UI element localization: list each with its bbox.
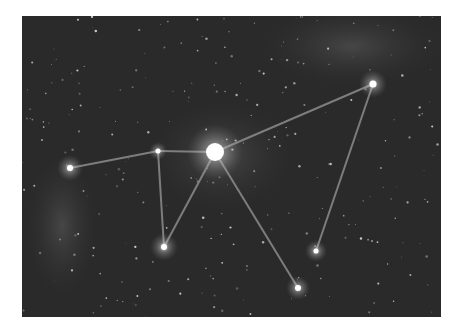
star-upper-right <box>370 81 377 88</box>
star-mid-left <box>156 149 161 154</box>
star-center <box>206 143 224 161</box>
star-left <box>67 165 73 171</box>
star-lower-right <box>314 249 319 254</box>
star-lower-left <box>161 244 167 250</box>
star-lower-mid <box>295 285 301 291</box>
star-field-photo <box>22 16 441 317</box>
constellation-illustration <box>22 16 441 317</box>
